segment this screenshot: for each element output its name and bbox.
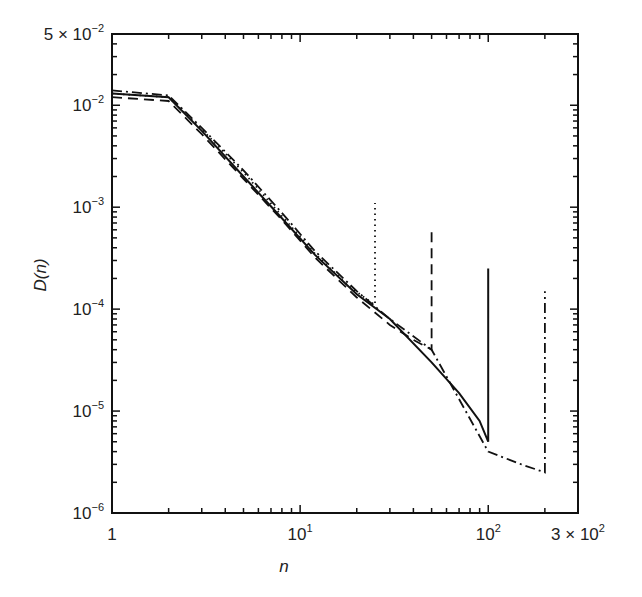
tick-labels: 11011023 × 10210−610−510−410−310−25 × 10…: [44, 22, 605, 544]
y-axis-title: D(n): [31, 258, 50, 291]
x-tick-label: 101: [288, 522, 313, 544]
x-tick-label: 3 × 102: [551, 522, 605, 544]
series-dashed: [112, 97, 432, 350]
x-tick-label: 1: [107, 525, 116, 544]
plot-frame: [112, 34, 578, 513]
y-tick-label: 10−5: [73, 399, 104, 421]
data-series: [112, 90, 545, 472]
y-tick-label: 10−3: [73, 195, 104, 217]
y-tick-label: 5 × 10−2: [44, 22, 104, 44]
series-dashdot: [112, 90, 545, 472]
y-tick-label: 10−2: [73, 93, 104, 115]
y-tick-label: 10−6: [73, 501, 104, 523]
axis-ticks: [112, 34, 578, 513]
y-tick-label: 10−4: [73, 297, 104, 319]
x-axis-title: n: [279, 557, 288, 576]
x-tick-label: 102: [476, 522, 501, 544]
log-log-chart: 11011023 × 10210−610−510−410−310−25 × 10…: [0, 0, 642, 597]
